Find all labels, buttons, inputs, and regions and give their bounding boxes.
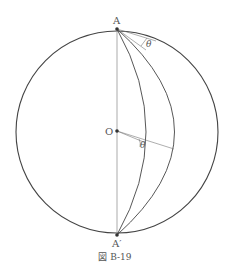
figure-caption: 図 B-19	[0, 250, 230, 263]
inner-meridian-arc	[117, 29, 146, 235]
label-theta-top: θ	[146, 39, 152, 49]
point-A	[115, 27, 119, 31]
label-A-prime: A′	[111, 238, 122, 249]
label-O: O	[105, 126, 113, 137]
label-theta-center: θ	[140, 140, 146, 150]
point-O	[115, 129, 119, 133]
point-A-prime	[115, 233, 119, 237]
label-A: A	[112, 15, 121, 26]
sphere-diagram: A A′ O θ θ	[0, 0, 230, 274]
